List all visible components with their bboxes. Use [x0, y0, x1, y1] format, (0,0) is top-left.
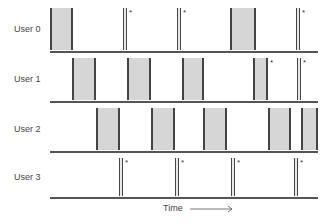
- asterisk-marker: *: [125, 159, 128, 167]
- asterisk-marker: *: [129, 9, 132, 17]
- activity-block: [72, 58, 96, 100]
- spike-marker: [231, 158, 235, 196]
- row-label-user-0: User 0: [14, 24, 41, 34]
- spike-marker: [296, 8, 300, 50]
- activity-block: [182, 58, 204, 100]
- activity-block: [127, 58, 151, 100]
- time-axis-label: Time: [163, 203, 183, 213]
- activity-block: [151, 108, 175, 150]
- activity-block: [301, 108, 318, 150]
- spike-marker: [119, 158, 123, 196]
- activity-block: [253, 58, 268, 100]
- asterisk-marker: *: [237, 159, 240, 167]
- asterisk-marker: *: [303, 59, 306, 67]
- activity-block: [96, 108, 120, 150]
- spike-marker: [177, 8, 181, 50]
- row-label-user-3: User 3: [14, 172, 41, 182]
- baseline-user-3: [50, 197, 318, 199]
- asterisk-marker: *: [183, 9, 186, 17]
- asterisk-marker: *: [300, 159, 303, 167]
- asterisk-marker: *: [181, 159, 184, 167]
- right-arrow-icon: [190, 205, 234, 213]
- row-label-user-1: User 1: [14, 74, 41, 84]
- baseline-user-1: [50, 101, 318, 103]
- spike-marker: [123, 8, 127, 50]
- activity-block: [203, 108, 227, 150]
- baseline-user-0: [50, 51, 318, 53]
- activity-block: [268, 108, 291, 150]
- baseline-user-2: [50, 151, 318, 153]
- row-label-user-2: User 2: [14, 124, 41, 134]
- spike-marker: [297, 58, 301, 100]
- asterisk-marker: *: [270, 59, 273, 67]
- spike-marker: [175, 158, 179, 196]
- asterisk-marker: *: [302, 9, 305, 17]
- spike-marker: [294, 158, 298, 196]
- activity-block: [50, 8, 73, 50]
- activity-block: [230, 8, 256, 50]
